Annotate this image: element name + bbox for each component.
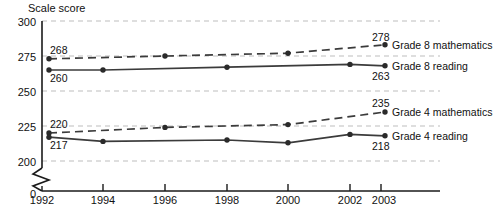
x-tick-2003: 2003 <box>372 194 396 206</box>
series-grade-8-reading <box>46 62 387 73</box>
legend-label-grade-4-reading: Grade 4 reading <box>392 130 468 142</box>
value-label-g8m-end: 278 <box>372 31 390 43</box>
x-axis-line <box>42 184 440 191</box>
legend-label-grade-8-reading: Grade 8 reading <box>392 60 468 72</box>
series-grade-8-mathematics <box>46 42 387 61</box>
x-tick-1992: 1992 <box>30 194 54 206</box>
chart-container: Scale score 300 275 250 225 200 0 <box>0 0 494 216</box>
value-label-g8m-start: 268 <box>50 44 68 56</box>
y-axis-line <box>33 21 49 191</box>
x-tick-1994: 1994 <box>91 194 115 206</box>
value-label-g4m-start: 220 <box>50 118 68 130</box>
x-tick-1996: 1996 <box>153 194 177 206</box>
x-tick-2002: 2002 <box>338 194 362 206</box>
value-label-g8r-start: 260 <box>50 72 68 84</box>
value-label-g8r-end: 263 <box>372 70 390 82</box>
series-grade-4-mathematics <box>46 109 387 135</box>
value-label-g4m-end: 235 <box>372 97 390 109</box>
series-grade-4-reading <box>46 132 387 146</box>
legend-label-grade-4-mathematics: Grade 4 mathematics <box>392 106 492 118</box>
legend-label-grade-8-mathematics: Grade 8 mathematics <box>392 39 492 51</box>
value-label-g4r-start: 217 <box>50 139 68 151</box>
value-label-g4r-end: 218 <box>372 140 390 152</box>
x-tick-2000: 2000 <box>276 194 300 206</box>
x-tick-1998: 1998 <box>215 194 239 206</box>
